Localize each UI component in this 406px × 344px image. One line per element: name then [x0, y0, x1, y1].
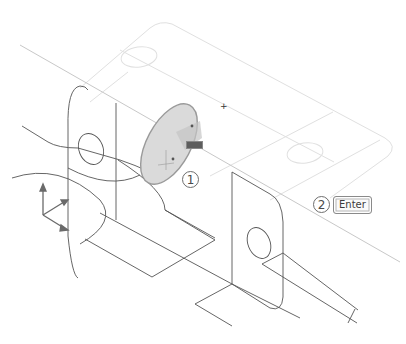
model-drawing: [0, 0, 406, 344]
grip-point: [172, 158, 175, 161]
grip-point: [191, 125, 194, 128]
base-plates: [85, 172, 358, 326]
ucs-icon: [40, 184, 68, 231]
cursor-crosshair-icon: +: [220, 102, 228, 111]
construction-line: [20, 45, 400, 262]
z-axis-arrow-icon: [40, 184, 46, 191]
cad-viewport[interactable]: + 1 2 Enter: [0, 0, 406, 344]
callout-step-1: 1: [182, 171, 199, 188]
grip-tooltip: [186, 141, 203, 149]
enter-key-button[interactable]: Enter: [333, 196, 372, 214]
y-axis-arrow-icon: [61, 200, 68, 205]
x-axis-arrow-icon: [60, 225, 68, 231]
callout-step-2: 2: [313, 196, 330, 213]
ghost-top-plate: [80, 23, 392, 200]
